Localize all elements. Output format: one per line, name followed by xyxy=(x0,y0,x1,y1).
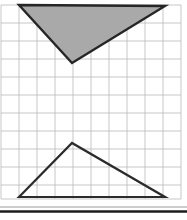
geometry-figure xyxy=(0,0,187,220)
figure-container xyxy=(0,0,187,220)
